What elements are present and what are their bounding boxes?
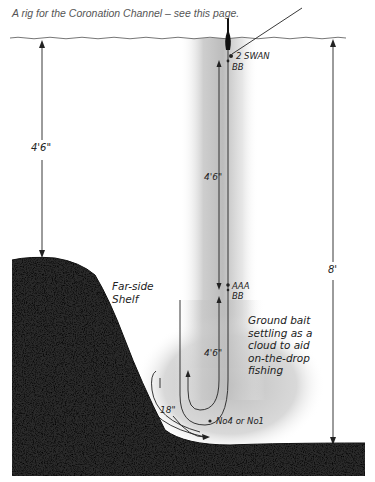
left-depth-label: 4'6" (30, 142, 52, 153)
upper-line-length-label: 4'6" (204, 172, 222, 182)
shot-label-bb-top: BB (232, 62, 244, 72)
lower-line-length-label: 4'6" (204, 348, 222, 358)
caption: A rig for the Coronation Channel – see t… (12, 7, 239, 19)
groundbait-cloud (135, 38, 325, 455)
shot-label-aaa: AAA (232, 281, 249, 291)
diagram-drawing (0, 0, 375, 482)
hook-shot-label: No4 or No1 (216, 416, 264, 426)
water-surface-line (10, 37, 346, 39)
rod-line (232, 8, 302, 54)
fishing-rig-diagram: A rig for the Coronation Channel – see t… (0, 0, 375, 482)
total-depth-label: 8' (327, 264, 338, 275)
groundbait-label: Ground bait settling as a cloud to aid o… (248, 314, 312, 377)
float-icon (225, 18, 231, 50)
shot-label-2-swan: 2 SWAN (236, 51, 270, 61)
shot-label-bb-mid: BB (232, 291, 244, 301)
shelf-label: Far-side Shelf (112, 280, 154, 305)
swing-length-label: 18" (160, 405, 176, 415)
